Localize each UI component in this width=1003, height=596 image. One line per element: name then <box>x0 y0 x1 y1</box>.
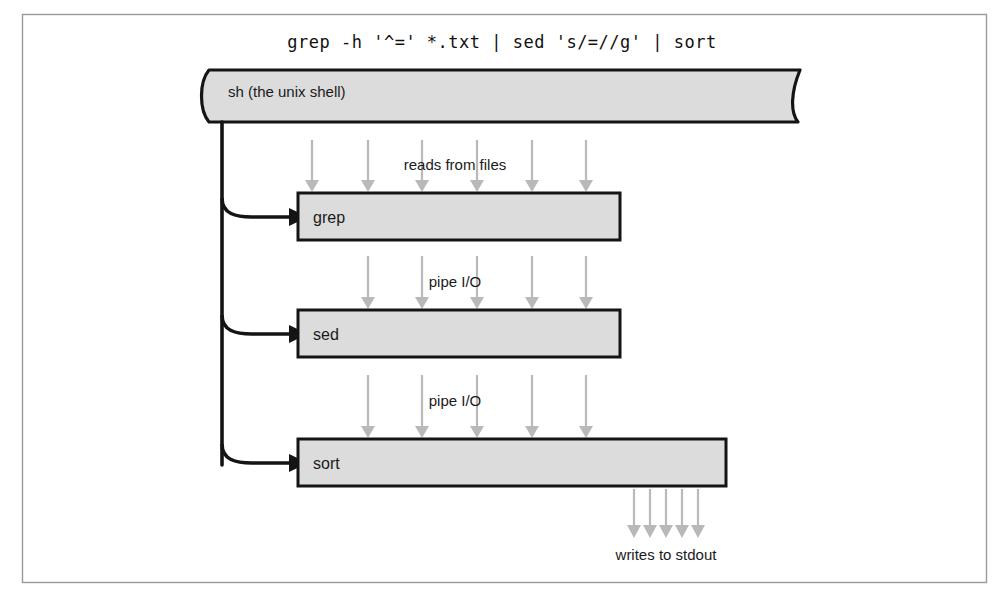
branch-to-sort <box>222 444 289 463</box>
command-line-text: grep -h '^=' *.txt | sed 's/=//g' | sort <box>287 32 716 52</box>
inflow-label-sort: pipe I/O <box>429 392 482 409</box>
stage-box-sort <box>298 439 726 486</box>
shell-box-label: sh (the unix shell) <box>228 83 346 100</box>
inflow-label-sed: pipe I/O <box>429 273 482 290</box>
figure-root: grep -h '^=' *.txt | sed 's/=//g' | sort… <box>0 0 1003 596</box>
branch-to-grep <box>222 198 289 217</box>
stage-label-sort: sort <box>313 455 340 472</box>
stage-label-grep: grep <box>313 209 345 226</box>
stage-label-sed: sed <box>313 326 339 343</box>
branch-to-sed <box>222 315 289 334</box>
stage-box-sed <box>298 310 620 357</box>
stage-box-grep <box>298 193 620 240</box>
output-label-stdout: writes to stdout <box>615 546 718 563</box>
output-arrows-stdout <box>627 489 705 538</box>
pipeline-diagram: grep -h '^=' *.txt | sed 's/=//g' | sort… <box>0 0 1003 596</box>
inflow-label-grep: reads from files <box>404 156 507 173</box>
